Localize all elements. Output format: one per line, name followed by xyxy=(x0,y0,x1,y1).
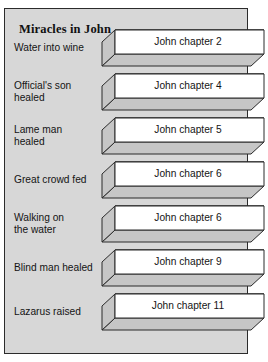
bar-category-label: Blind man healed xyxy=(14,262,106,274)
bar-bottom-face xyxy=(102,98,264,110)
bar-row: Water into wineJohn chapter 2 xyxy=(0,26,268,70)
bar-front-face xyxy=(115,30,264,54)
bar-category-label: Lazarus raised xyxy=(14,306,106,318)
bar-front-face xyxy=(115,206,264,230)
bar-category-label: Great crowd fed xyxy=(14,174,106,186)
bar-3d: John chapter 6 xyxy=(102,162,264,198)
bar-front-face xyxy=(115,250,264,274)
bar-category-label: Official's sonhealed xyxy=(14,80,106,105)
bar-front-face xyxy=(115,118,264,142)
bar-front-face xyxy=(115,162,264,186)
bar-category-label: Lame manhealed xyxy=(14,124,106,149)
bar-bottom-face xyxy=(102,142,264,154)
bar-row: Official's sonhealedJohn chapter 4 xyxy=(0,70,268,114)
bar-front-face xyxy=(115,74,264,98)
bar-3d: John chapter 9 xyxy=(102,250,264,286)
bar-3d: John chapter 11 xyxy=(102,294,264,330)
bar-row: Blind man healedJohn chapter 9 xyxy=(0,246,268,290)
bar-front-face xyxy=(115,294,264,318)
bar-row: Great crowd fedJohn chapter 6 xyxy=(0,158,268,202)
bar-3d: John chapter 5 xyxy=(102,118,264,154)
bar-bottom-face xyxy=(102,274,264,286)
bar-bottom-face xyxy=(102,318,264,330)
bar-3d: John chapter 4 xyxy=(102,74,264,110)
bar-3d: John chapter 2 xyxy=(102,30,264,66)
bar-row: Lame manhealedJohn chapter 5 xyxy=(0,114,268,158)
bar-3d: John chapter 6 xyxy=(102,206,264,242)
bar-row: Lazarus raisedJohn chapter 11 xyxy=(0,290,268,334)
bar-bottom-face xyxy=(102,186,264,198)
bar-bottom-face xyxy=(102,230,264,242)
bar-category-label: Walking onthe water xyxy=(14,212,106,237)
bar-row: Walking onthe waterJohn chapter 6 xyxy=(0,202,268,246)
chart-image: Miracles in John Water into wineJohn cha… xyxy=(0,0,268,362)
bar-category-label: Water into wine xyxy=(14,42,106,54)
bar-bottom-face xyxy=(102,54,264,66)
